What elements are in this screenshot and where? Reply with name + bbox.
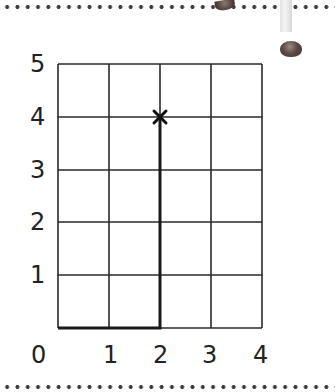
y-tick-3: 3 xyxy=(30,158,45,182)
y-tick-4: 4 xyxy=(30,105,45,129)
y-tick-2: 2 xyxy=(30,210,45,234)
x-tick-4: 4 xyxy=(253,343,268,367)
x-tick-2: 2 xyxy=(153,343,168,367)
dotted-border-bottom xyxy=(0,384,335,390)
x-tick-1: 1 xyxy=(103,343,118,367)
y-tick-1: 1 xyxy=(30,263,45,287)
x-tick-0: 0 xyxy=(31,343,46,367)
x-tick-3: 3 xyxy=(202,343,217,367)
grid-diagram xyxy=(0,0,335,392)
y-tick-5: 5 xyxy=(30,52,45,76)
